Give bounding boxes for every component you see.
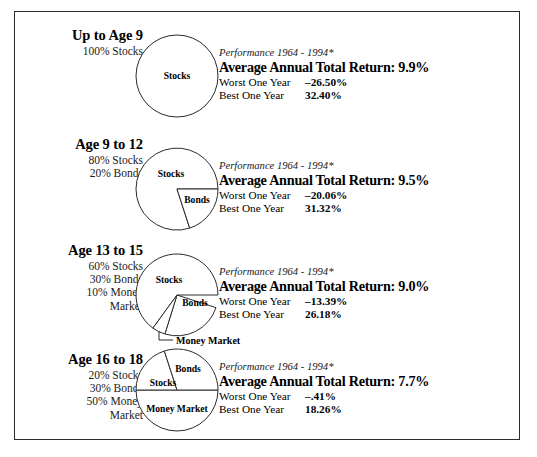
section-2-worst-row: Worst One Year–20.06% (219, 189, 469, 202)
section-1-pie-chart: Stocks (131, 28, 231, 128)
section-1-worst-value: –26.50% (305, 76, 361, 89)
section-2-worst-label: Worst One Year (219, 189, 305, 202)
section-3-best-label: Best One Year (219, 308, 305, 321)
section-3-best-row: Best One Year26.18% (219, 308, 469, 321)
section-4-best-value: 18.26% (305, 403, 361, 416)
section-1-period: Performance 1964 - 1994* (219, 46, 469, 59)
section-1-average-return: Average Annual Total Return: 9.9% (219, 59, 469, 76)
section-2-pie-chart: Stocks Bonds (131, 141, 231, 241)
section-3-best-value: 26.18% (305, 308, 361, 321)
section-2-heading: Age 9 to 12 (15, 137, 143, 152)
section-3-worst-row: Worst One Year–13.39% (219, 295, 469, 308)
section-3-allocation: 60% Stocks 30% Bonds 10% Money Market (15, 260, 143, 313)
section-1-worst-row: Worst One Year–26.50% (219, 76, 469, 89)
page-root: Up to Age 9 100% Stocks Stocks Performan… (0, 0, 537, 457)
pie-label-bonds: Bonds (175, 363, 201, 374)
section-1-heading: Up to Age 9 (15, 28, 143, 43)
section-2-period: Performance 1964 - 1994* (219, 159, 469, 172)
section-2-performance: Performance 1964 - 1994* Average Annual … (219, 159, 469, 215)
section-2-best-value: 31.32% (305, 202, 361, 215)
section-3-performance: Performance 1964 - 1994* Average Annual … (219, 265, 469, 321)
section-3-pie-chart: Stocks Bonds Money Market (131, 247, 231, 347)
section-2-allocation: 80% Stocks 20% Bonds (15, 154, 143, 180)
section-4-allocation: 20% Stocks 30% Bonds 50% Money Market (15, 369, 143, 422)
section-1-performance: Performance 1964 - 1994* Average Annual … (219, 46, 469, 102)
section-4-worst-value: –.41% (305, 390, 361, 403)
section-2-best-row: Best One Year31.32% (219, 202, 469, 215)
section-4-period: Performance 1964 - 1994* (219, 360, 469, 373)
pie-label-stocks: Stocks (158, 168, 185, 179)
pie-label-stocks: Stocks (156, 274, 183, 285)
section-2-labels: Age 9 to 12 80% Stocks 20% Bonds (15, 137, 143, 180)
section-2-worst-value: –20.06% (305, 189, 361, 202)
section-1-best-label: Best One Year (219, 89, 305, 102)
section-3-labels: Age 13 to 15 60% Stocks 30% Bonds 10% Mo… (15, 243, 143, 313)
section-1-best-row: Best One Year32.40% (219, 89, 469, 102)
pie-label-bonds: Bonds (184, 194, 210, 205)
section-1-best-value: 32.40% (305, 89, 361, 102)
section-4-worst-label: Worst One Year (219, 390, 305, 403)
section-4-performance: Performance 1964 - 1994* Average Annual … (219, 360, 469, 416)
section-2-average-return: Average Annual Total Return: 9.5% (219, 172, 469, 189)
section-3-worst-label: Worst One Year (219, 295, 305, 308)
section-4-worst-row: Worst One Year–.41% (219, 390, 469, 403)
section-4-best-row: Best One Year18.26% (219, 403, 469, 416)
section-3-average-return: Average Annual Total Return: 9.0% (219, 278, 469, 295)
section-1-worst-label: Worst One Year (219, 76, 305, 89)
section-4-pie-chart: Stocks Bonds Money Market (131, 342, 231, 442)
section-3-period: Performance 1964 - 1994* (219, 265, 469, 278)
pie-label-stocks: Stocks (164, 70, 191, 81)
section-4-best-label: Best One Year (219, 403, 305, 416)
pie-label-bonds: Bonds (182, 297, 208, 308)
section-4-heading: Age 16 to 18 (15, 352, 143, 367)
section-1-allocation: 100% Stocks (15, 45, 143, 58)
section-3-heading: Age 13 to 15 (15, 243, 143, 258)
section-3-worst-value: –13.39% (305, 295, 361, 308)
section-1-labels: Up to Age 9 100% Stocks (15, 28, 143, 58)
section-4-average-return: Average Annual Total Return: 7.7% (219, 373, 469, 390)
pie-label-money-market: Money Market (146, 403, 208, 414)
section-2-best-label: Best One Year (219, 202, 305, 215)
pie-label-stocks: Stocks (150, 377, 177, 388)
chart-frame: Up to Age 9 100% Stocks Stocks Performan… (14, 11, 520, 440)
section-4-labels: Age 16 to 18 20% Stocks 30% Bonds 50% Mo… (15, 352, 143, 422)
